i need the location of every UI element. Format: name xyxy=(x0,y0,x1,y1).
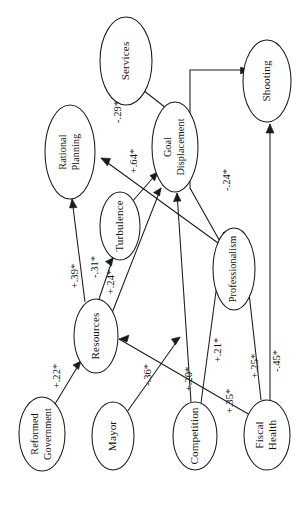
node-label: Displacement xyxy=(175,118,186,175)
edge-coefficient-label: +.25* xyxy=(249,354,260,379)
edge-coefficient-label: -.29* xyxy=(112,101,123,123)
node-label: Goal xyxy=(162,137,173,157)
node-label: Fiscal xyxy=(253,421,265,448)
node-goal_displacement: GoalDisplacement xyxy=(152,102,198,192)
node-competition: Competition xyxy=(173,402,217,470)
node-label: Government xyxy=(42,408,53,460)
node-services: Services xyxy=(100,17,152,105)
edge-coefficient-label: +.39* xyxy=(69,264,80,289)
edge-coefficient-label: +.20* xyxy=(183,367,194,392)
node-label: Reformed xyxy=(29,413,40,455)
edge-coefficient-label: +.24* xyxy=(105,270,116,295)
edge-coefficient-label: -.45* xyxy=(271,350,282,372)
edge-coefficient-label: -.24* xyxy=(221,169,232,191)
arrowhead-icon xyxy=(70,199,78,208)
node-label: Competition xyxy=(188,407,200,464)
edge-coefficient-label: +.35* xyxy=(224,389,235,414)
node-label: Services xyxy=(119,42,131,81)
node-label: Mayor xyxy=(106,421,118,452)
arrowhead-icon xyxy=(154,188,162,196)
edge-coefficient-label: +.22* xyxy=(51,364,62,389)
edge-coefficient-label: +.64* xyxy=(128,149,139,174)
arrowhead-icon xyxy=(73,361,81,370)
node-fiscal_health: FiscalHealth xyxy=(244,400,290,470)
edge-coefficient-label: +.21* xyxy=(212,338,223,363)
arrowhead-icon xyxy=(101,158,111,166)
arrowhead-icon xyxy=(172,337,181,345)
node-mayor: Mayor xyxy=(92,402,134,470)
node-label: Shooting xyxy=(260,60,272,102)
edge-coefficient-label: -.36* xyxy=(142,364,153,386)
node-rational_planning: RationalPlanning xyxy=(45,105,95,199)
arrowhead-icon xyxy=(266,124,274,133)
arrowhead-icon xyxy=(106,258,114,266)
node-resources: Resources xyxy=(74,299,118,373)
node-label: Health xyxy=(266,419,278,450)
node-label: Resources xyxy=(89,313,101,360)
node-label: Rational xyxy=(57,134,68,169)
edge-turbulence-to-gd xyxy=(131,172,158,203)
node-turbulence: Turbulence xyxy=(100,192,140,260)
node-label: Turbulence xyxy=(113,200,125,252)
edge-coefficient-label: -.31* xyxy=(89,256,100,278)
node-label: Planning xyxy=(70,133,81,170)
arrowhead-icon xyxy=(174,193,182,202)
path-diagram-svg: ServicesShootingRationalPlanningGoalDisp… xyxy=(0,0,296,518)
node-label: Professionalism xyxy=(227,236,238,303)
node-reformed_government: ReformedGovernment xyxy=(19,397,65,471)
nodes-layer: ServicesShootingRationalPlanningGoalDisp… xyxy=(19,17,291,471)
node-professionalism: Professionalism xyxy=(213,228,255,310)
path-diagram-canvas: ServicesShootingRationalPlanningGoalDisp… xyxy=(0,0,296,518)
node-shooting: Shooting xyxy=(243,40,291,122)
arrowhead-icon xyxy=(119,335,129,342)
